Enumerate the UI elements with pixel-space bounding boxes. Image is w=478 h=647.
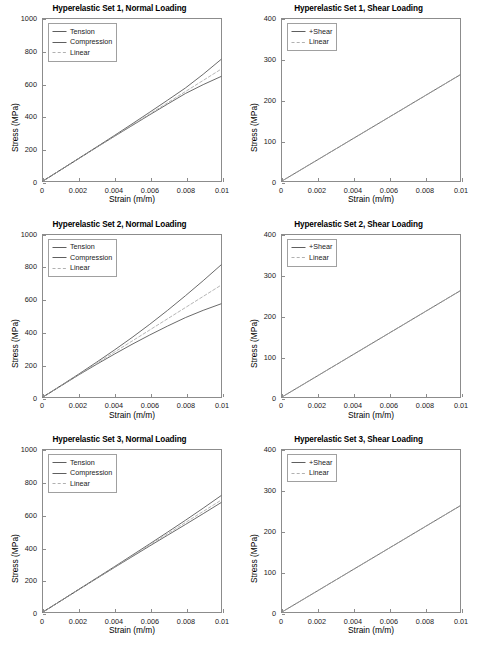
legend-line-icon (52, 470, 67, 477)
legend-label: Tension (70, 242, 95, 253)
chart-title: Hyperelastic Set 1, Shear Loading (239, 4, 478, 13)
legend-label: Linear (70, 479, 90, 490)
y-tick-mark (282, 183, 286, 184)
chart-title: Hyperelastic Set 1, Normal Loading (0, 4, 239, 13)
y-tick-mark (282, 532, 286, 533)
legend-item[interactable]: Linear (291, 37, 332, 48)
legend-label: Compression (70, 468, 112, 479)
x-tick-mark (115, 178, 116, 182)
y-tick-mark (282, 142, 286, 143)
y-tick-mark (43, 52, 47, 53)
chart-title: Hyperelastic Set 3, Normal Loading (0, 435, 239, 444)
legend-line-icon (52, 39, 67, 46)
series-line (43, 77, 221, 181)
y-tick-label: 800 (0, 477, 37, 486)
legend-label: Linear (70, 263, 90, 274)
y-tick-mark (43, 366, 47, 367)
legend-item[interactable]: Linear (52, 48, 112, 59)
legend-line-icon (52, 480, 67, 487)
chart-legend: +ShearLinear (287, 239, 337, 267)
y-tick-mark (43, 235, 47, 236)
y-tick-mark (43, 450, 47, 451)
legend-line-icon (52, 49, 67, 56)
x-tick-mark (282, 609, 283, 613)
x-axis-label: Strain (m/m) (281, 410, 461, 420)
y-axis-label: Stress (MPa) (249, 319, 259, 368)
legend-label: +Shear (309, 27, 332, 38)
y-tick-label: 600 (0, 510, 37, 519)
y-tick-label: 300 (239, 55, 276, 64)
x-tick-mark (318, 178, 319, 182)
x-tick-mark (151, 178, 152, 182)
y-tick-mark (282, 491, 286, 492)
x-tick-mark (390, 178, 391, 182)
legend-line-icon (52, 28, 67, 35)
y-tick-label: 0 (0, 609, 37, 618)
x-tick-mark (223, 178, 224, 182)
y-tick-mark (43, 483, 47, 484)
chart-panel: Hyperelastic Set 2, Shear Loading00.0020… (239, 216, 478, 432)
legend-item[interactable]: Tension (52, 458, 112, 469)
chart-panel: Hyperelastic Set 3, Normal Loading00.002… (0, 431, 239, 647)
chart-legend: TensionCompressionLinear (48, 454, 117, 493)
y-tick-label: 1000 (0, 229, 37, 238)
series-line (43, 303, 221, 396)
legend-item[interactable]: Compression (52, 468, 112, 479)
y-tick-mark (282, 399, 286, 400)
legend-line-icon (291, 459, 306, 466)
y-tick-mark (282, 101, 286, 102)
y-tick-mark (43, 581, 47, 582)
y-tick-mark (43, 333, 47, 334)
x-tick-mark (187, 394, 188, 398)
y-tick-mark (43, 19, 47, 20)
y-tick-label: 0 (239, 393, 276, 402)
chart-panel: Hyperelastic Set 1, Shear Loading00.0020… (239, 0, 478, 216)
legend-item[interactable]: Linear (291, 253, 332, 264)
figure-canvas: Hyperelastic Set 1, Normal Loading00.002… (0, 0, 478, 647)
legend-label: Compression (70, 37, 112, 48)
legend-line-icon (52, 265, 67, 272)
legend-item[interactable]: +Shear (291, 458, 332, 469)
x-axis-label: Strain (m/m) (42, 410, 222, 420)
x-tick-mark (318, 394, 319, 398)
legend-line-icon (291, 28, 306, 35)
legend-item[interactable]: Linear (291, 468, 332, 479)
series-line (43, 60, 221, 182)
legend-label: Tension (70, 458, 95, 469)
y-tick-mark (43, 516, 47, 517)
legend-item[interactable]: +Shear (291, 242, 332, 253)
x-tick-mark (426, 609, 427, 613)
x-tick-mark (354, 394, 355, 398)
y-tick-mark (43, 117, 47, 118)
chart-legend: TensionCompressionLinear (48, 23, 117, 62)
y-tick-mark (43, 267, 47, 268)
y-tick-label: 300 (239, 270, 276, 279)
legend-label: Linear (309, 468, 329, 479)
series-line (43, 496, 221, 612)
chart-title: Hyperelastic Set 3, Shear Loading (239, 435, 478, 444)
legend-item[interactable]: Tension (52, 27, 112, 38)
y-tick-label: 400 (239, 445, 276, 454)
series-line (282, 506, 460, 612)
legend-item[interactable]: +Shear (291, 27, 332, 38)
x-tick-mark (282, 394, 283, 398)
legend-item[interactable]: Tension (52, 242, 112, 253)
x-tick-mark (79, 609, 80, 613)
y-axis-label: Stress (MPa) (10, 319, 20, 368)
legend-item[interactable]: Linear (52, 263, 112, 274)
legend-item[interactable]: Linear (52, 479, 112, 490)
y-tick-label: 800 (0, 262, 37, 271)
legend-item[interactable]: Compression (52, 253, 112, 264)
x-tick-mark (43, 394, 44, 398)
x-tick-mark (151, 394, 152, 398)
x-tick-mark (462, 178, 463, 182)
legend-line-icon (52, 244, 67, 251)
legend-line-icon (52, 254, 67, 261)
legend-label: Tension (70, 27, 95, 38)
series-line (43, 285, 221, 397)
x-tick-mark (43, 178, 44, 182)
x-axis-label: Strain (m/m) (281, 194, 461, 204)
legend-label: Compression (70, 253, 112, 264)
y-tick-label: 0 (0, 393, 37, 402)
legend-item[interactable]: Compression (52, 37, 112, 48)
